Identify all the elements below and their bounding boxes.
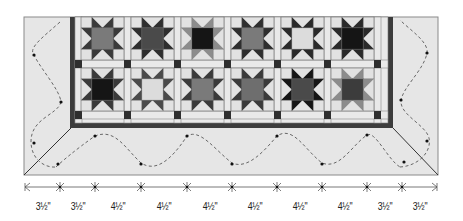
dimension-label: 4½" [247,200,262,212]
quilting-dot [399,98,402,101]
star-center [142,79,164,101]
star-center [92,28,114,50]
cornerstone [124,60,131,68]
sashing-vertical [324,17,331,123]
quilt-diagram [0,0,463,221]
quilting-dot [185,134,188,137]
star-center [292,28,314,50]
star-center [192,79,214,101]
cornerstone [274,111,281,119]
star-center [192,28,214,50]
quilting-dot [93,134,96,137]
cornerstone [124,111,131,119]
star-center [92,79,114,101]
dimension-label: 4½" [292,200,307,212]
dimension-label: 4½" [202,200,217,212]
sashing-vertical [274,17,281,123]
cornerstone [324,60,331,68]
star-center [242,79,264,101]
star-block [181,17,224,60]
star-block [281,17,324,60]
quilting-dot [275,134,278,137]
quilting-dot [32,53,35,56]
quilting-dot [425,139,428,142]
quilting-dot [59,100,62,103]
star-block [231,17,274,60]
sashing-vertical [124,17,131,123]
sashing-vertical [174,17,181,123]
dimension-label: 4½" [157,200,172,212]
cornerstone [274,60,281,68]
star-block [181,68,224,111]
star-block [131,68,174,111]
quilting-dot [365,133,368,136]
quilting-dot [139,162,142,165]
sashing-horizontal [75,60,388,68]
cornerstone [324,111,331,119]
cornerstone [374,60,381,68]
star-block [331,17,374,60]
dimension-label: 4½" [337,200,352,212]
dimension-label: 4½" [111,200,126,212]
quilting-dot [230,162,233,165]
star-block [231,68,274,111]
quilting-dot [425,51,428,54]
star-center [142,28,164,50]
star-block [281,68,324,111]
sashing-vertical [374,17,381,123]
inner-border-right [388,17,393,128]
quilt-center [70,17,393,128]
star-block [331,68,374,111]
dimension-label: 3½" [412,200,427,212]
sashing-horizontal [75,111,388,119]
cornerstone [75,111,82,119]
cornerstone [374,111,381,119]
star-block [131,17,174,60]
star-center [242,28,264,50]
cornerstone [75,60,82,68]
quilting-dot [402,160,405,163]
quilting-dot [320,162,323,165]
dimension-label: 3½" [70,200,85,212]
inner-border-bottom [70,123,393,128]
cornerstone [224,111,231,119]
star-center [342,79,364,101]
star-center [342,28,364,50]
quilting-dot [32,141,35,144]
dimension-label: 3½" [377,200,392,212]
inner-border-left [70,17,75,128]
star-block [81,68,124,111]
sashing-vertical [224,17,231,123]
dimension-line [25,182,437,192]
star-center [292,79,314,101]
cornerstone [224,60,231,68]
cornerstone [174,111,181,119]
cornerstone [174,60,181,68]
star-block [81,17,124,60]
quilting-dot [56,162,59,165]
dimension-label: 3½" [35,200,50,212]
